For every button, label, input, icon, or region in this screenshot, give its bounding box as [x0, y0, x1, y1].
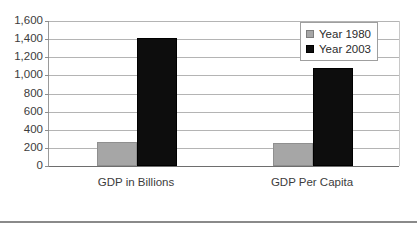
y-tick-mark-800	[45, 94, 49, 95]
y-axis-tick-label-0: 0	[0, 159, 43, 171]
y-axis-tick-label-1400: 1,400	[0, 32, 43, 44]
bar-year-2003-gdp-in-billions	[137, 38, 177, 166]
gdp-bar-chart: 1,6001,4001,2001,0008006004002000 GDP in…	[0, 0, 417, 230]
legend-swatch-icon-year-2003	[306, 45, 314, 53]
y-tick-mark-1600	[45, 21, 49, 22]
y-axis-tick-label-1200: 1,200	[0, 50, 43, 62]
y-tick-mark-1000	[45, 75, 49, 76]
y-axis-tick-label-400: 400	[0, 123, 43, 135]
y-tick-mark-1200	[45, 57, 49, 58]
y-axis-tick-label-800: 800	[0, 87, 43, 99]
bar-year-2003-gdp-per-capita	[313, 68, 353, 166]
y-tick-mark-600	[45, 112, 49, 113]
chart-legend: Year 1980 Year 2003	[300, 22, 378, 61]
y-axis-tick-label-1000: 1,000	[0, 68, 43, 80]
legend-label-year-2003: Year 2003	[319, 43, 371, 55]
legend-swatch-icon-year-1980	[306, 30, 314, 38]
y-axis-tick-label-200: 200	[0, 141, 43, 153]
bar-year-1980-gdp-per-capita	[273, 143, 313, 166]
bar-year-1980-gdp-in-billions	[97, 142, 137, 166]
y-tick-mark-0	[45, 166, 49, 167]
legend-label-year-1980: Year 1980	[319, 28, 371, 40]
legend-item-year-1980: Year 1980	[306, 26, 371, 41]
y-axis-tick-label-600: 600	[0, 105, 43, 117]
y-tick-mark-1400	[45, 39, 49, 40]
y-tick-mark-200	[45, 148, 49, 149]
legend-item-year-2003: Year 2003	[306, 41, 371, 56]
gridline-0	[49, 166, 399, 167]
bottom-divider	[0, 221, 417, 223]
category-label-gdp-per-capita: GDP Per Capita	[232, 176, 392, 188]
category-label-gdp-in-billions: GDP in Billions	[56, 176, 216, 188]
y-tick-mark-400	[45, 130, 49, 131]
y-axis-tick-label-1600: 1,600	[0, 14, 43, 26]
